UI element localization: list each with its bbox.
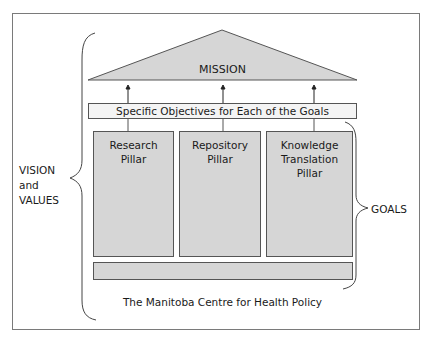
repository-pillar: Repository Pillar: [179, 131, 261, 257]
vision-values-label: VISION and VALUES: [19, 163, 69, 208]
vision-line: VISION: [19, 163, 69, 178]
arrow-icon: [126, 85, 316, 103]
pillar-label-line1: Repository: [180, 138, 260, 152]
pillar-label-line2: Pillar: [94, 152, 173, 166]
pillar-label-line2: Translation Pillar: [267, 152, 352, 180]
research-pillar: Research Pillar: [93, 131, 174, 257]
pillar-label-line1: Knowledge: [267, 138, 352, 152]
pillar-label-line1: Research: [94, 138, 173, 152]
objectives-label: Specific Objectives for Each of the Goal…: [116, 105, 329, 117]
and-line: and: [19, 178, 69, 193]
connector-lines: [128, 119, 314, 131]
organization-label: The Manitoba Centre for Health Policy: [88, 296, 357, 309]
mission-label: MISSION: [88, 63, 357, 76]
pillar-label-line2: Pillar: [180, 152, 260, 166]
objectives-bar: Specific Objectives for Each of the Goal…: [88, 103, 357, 119]
knowledge-translation-pillar: Knowledge Translation Pillar: [266, 131, 353, 257]
foundation-bar: [93, 262, 353, 280]
values-line: VALUES: [19, 193, 69, 208]
goals-label: GOALS: [371, 203, 407, 216]
